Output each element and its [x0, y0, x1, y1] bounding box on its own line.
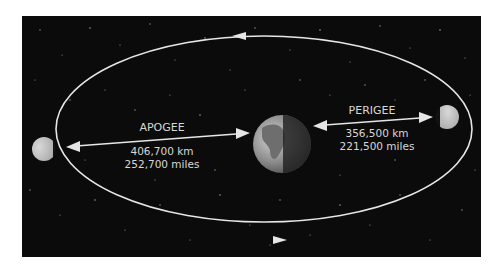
orbit-arrow-top [232, 32, 246, 40]
apogee-miles: 252,700 miles [125, 158, 200, 170]
earth [253, 110, 315, 180]
perigee-miles: 221,500 miles [340, 140, 415, 152]
orbit-arrow-bottom [273, 236, 287, 244]
apogee-label: APOGEE [139, 121, 184, 134]
perigee-label: PERIGEE [349, 104, 396, 117]
moon-perigee [430, 100, 460, 130]
perigee-km: 356,500 km [345, 127, 408, 139]
apogee-km: 406,700 km [130, 145, 193, 157]
stars [29, 23, 475, 245]
orbit-diagram: APOGEE 406,700 km 252,700 miles PERIGEE … [0, 0, 502, 271]
